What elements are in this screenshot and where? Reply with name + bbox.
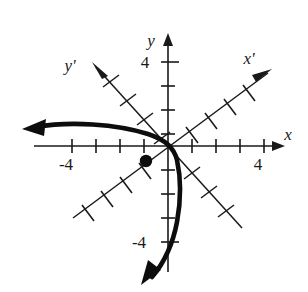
y-axis-label: y: [145, 31, 155, 50]
plotted-point: [140, 155, 152, 167]
x-prime-axis-arrowhead: [252, 69, 272, 82]
y-prime-axis-arrowhead: [92, 62, 108, 79]
y-tick-label-4: 4: [141, 53, 150, 72]
x-prime-axis-group: [73, 69, 272, 221]
y-axis-arrowhead: [163, 33, 173, 46]
curve-left-arrowhead: [22, 119, 46, 136]
graph-canvas: x y x' y' -4 4 4 -4: [0, 0, 308, 292]
parabola-curve-group: [22, 119, 180, 285]
x-prime-axis-label: x': [242, 49, 255, 68]
x-tick-label-negative-4: -4: [59, 155, 74, 174]
x-axis-arrowhead: [272, 141, 285, 151]
y-tick-label-negative-4: -4: [132, 233, 147, 252]
x-axis-label: x: [283, 125, 292, 144]
y-prime-axis-label: y': [62, 56, 76, 75]
x-tick-label-4: 4: [254, 155, 263, 174]
rotated-conic-figure: x y x' y' -4 4 4 -4: [0, 0, 308, 292]
